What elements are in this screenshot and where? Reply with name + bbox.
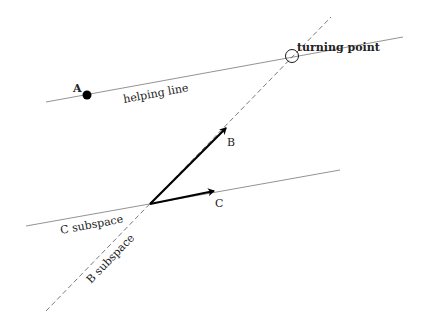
diagram-canvas: A turning point B C helping line C subsp… xyxy=(0,0,424,331)
vector-c-label: C xyxy=(215,197,223,210)
helping-line-label: helping line xyxy=(122,81,189,106)
b-subspace-label: B subspace xyxy=(84,232,137,287)
c-subspace-label: C subspace xyxy=(59,213,124,237)
vector-b-label: B xyxy=(227,136,235,149)
point-a-dot xyxy=(83,91,92,100)
point-a-label: A xyxy=(72,82,82,95)
turning-point-label: turning point xyxy=(297,41,381,54)
